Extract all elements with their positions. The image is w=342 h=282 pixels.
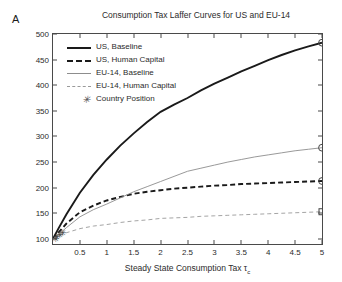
figure-panel: A Consumption Tax Laffer Curves for US a… — [0, 0, 342, 282]
legend-label: EU-14, Baseline — [96, 66, 154, 79]
y-tick-label: 150 — [36, 209, 53, 218]
y-tick-mark — [53, 136, 57, 137]
y-tick-mark — [318, 187, 322, 188]
legend-label: EU-14, Human Capital — [96, 79, 176, 92]
y-tick-mark — [318, 85, 322, 86]
legend-label: US, Human Capital — [96, 53, 164, 66]
legend-item: ✳Country Position — [67, 92, 176, 105]
x-tick-label: 1.5 — [128, 244, 139, 257]
legend-swatch-solid-thin — [67, 68, 91, 78]
y-tick-label: 500 — [36, 30, 53, 39]
y-tick-mark — [53, 110, 57, 111]
x-tick-label: 3 — [212, 244, 216, 257]
legend-swatch-solid-thick — [67, 42, 91, 52]
legend-item: US, Baseline — [67, 40, 176, 53]
y-tick-mark — [318, 136, 322, 137]
y-tick-mark — [53, 162, 57, 163]
x-tick-label: 5 — [320, 244, 324, 257]
y-tick-label: 300 — [36, 132, 53, 141]
y-tick-label: 400 — [36, 81, 53, 90]
legend-item: EU-14, Human Capital — [67, 79, 176, 92]
x-tick-label: 4 — [266, 244, 270, 257]
y-tick-mark — [53, 187, 57, 188]
legend-swatch-star: ✳ — [67, 94, 91, 104]
x-tick-mark — [214, 34, 215, 38]
y-tick-label: 250 — [36, 158, 53, 167]
x-tick-mark — [295, 240, 296, 244]
legend-label: Country Position — [96, 92, 155, 105]
x-tick-label: 0.5 — [74, 244, 85, 257]
y-tick-mark — [318, 162, 322, 163]
x-tick-mark — [268, 240, 269, 244]
x-tick-mark — [133, 240, 134, 244]
x-tick-mark — [214, 240, 215, 244]
y-tick-mark — [53, 59, 57, 60]
legend-item: EU-14, Baseline — [67, 66, 176, 79]
x-tick-mark — [106, 240, 107, 244]
legend-swatch-dash-thin — [67, 81, 91, 91]
x-tick-mark — [160, 240, 161, 244]
x-axis-label-text: Steady State Consumption Tax τ — [125, 263, 247, 273]
x-tick-mark — [268, 34, 269, 38]
plot-area: 100150200250300350400450500 0.511.522.53… — [52, 33, 323, 245]
y-tick-mark — [53, 213, 57, 214]
x-tick-mark — [295, 34, 296, 38]
y-tick-mark — [318, 59, 322, 60]
x-tick-mark — [322, 34, 323, 38]
legend-label: US, Baseline — [96, 40, 142, 53]
country-position-marker: ✳ — [59, 228, 67, 238]
y-tick-label: 450 — [36, 55, 53, 64]
series-line — [53, 148, 322, 239]
x-tick-label: 2 — [158, 244, 162, 257]
y-tick-mark — [318, 110, 322, 111]
x-tick-label: 3.5 — [236, 244, 247, 257]
x-tick-mark — [187, 240, 188, 244]
legend-item: US, Human Capital — [67, 53, 176, 66]
series-line — [53, 212, 322, 239]
x-tick-label: 4.5 — [290, 244, 301, 257]
x-tick-mark — [241, 240, 242, 244]
y-tick-mark — [53, 85, 57, 86]
x-tick-mark — [187, 34, 188, 38]
x-tick-mark — [79, 240, 80, 244]
x-axis-label: Steady State Consumption Tax τc — [52, 263, 323, 275]
y-tick-mark — [318, 213, 322, 214]
x-tick-mark — [322, 240, 323, 244]
chart-legend: US, BaselineUS, Human CapitalEU-14, Base… — [63, 38, 180, 107]
series-endpoint-marker — [319, 209, 322, 215]
y-tick-label: 200 — [36, 183, 53, 192]
y-tick-label: 100 — [36, 234, 53, 243]
x-tick-label: 1 — [105, 244, 109, 257]
y-tick-mark — [53, 238, 57, 239]
legend-swatch-dash-thick — [67, 55, 91, 65]
chart-title: Consumption Tax Laffer Curves for US and… — [52, 10, 340, 20]
x-axis-label-subscript: c — [247, 269, 250, 275]
y-tick-label: 350 — [36, 106, 53, 115]
y-tick-mark — [53, 34, 57, 35]
panel-label: A — [12, 13, 19, 25]
x-tick-label: 2.5 — [182, 244, 193, 257]
x-tick-mark — [241, 34, 242, 38]
